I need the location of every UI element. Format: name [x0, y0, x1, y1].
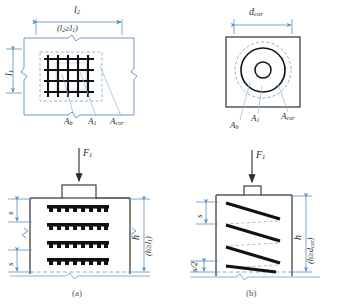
dim-label-l2: l2 — [74, 5, 80, 16]
spiral-front-b — [226, 203, 280, 272]
mesh-layer — [47, 223, 109, 230]
mesh-layer — [47, 205, 109, 212]
dim-label-s-top-b: s — [195, 214, 204, 218]
panel-b-plan — [226, 19, 300, 120]
area-label-ab-a: Ab — [64, 117, 73, 126]
mesh-layers-a — [47, 205, 109, 265]
panel-b-elevation — [190, 150, 320, 280]
dim-label-dcor: dcor — [249, 7, 263, 18]
dim-s-bottom-a — [8, 250, 32, 272]
core-circle-dashed-b — [235, 42, 291, 98]
dim-label-l1: l1 — [4, 70, 15, 76]
area-label-a1-a: A1 — [88, 117, 97, 126]
dim-label-s-bottom-a: s — [6, 262, 15, 266]
caption-b: (b) — [246, 288, 257, 298]
mesh-layer — [47, 241, 109, 248]
dim-label-h-a: h — [131, 235, 141, 240]
dim-note-h-ge-dcor: (h≥dcor) — [306, 237, 316, 264]
panel-a-elevation — [8, 148, 150, 279]
dim-l2 — [36, 19, 122, 35]
dim-label-h-b: h — [293, 235, 303, 240]
block-bottom-b — [190, 272, 320, 280]
area-label-acor-a: Acor — [110, 117, 124, 126]
side-breaks-a — [22, 228, 136, 238]
figure-canvas: l2 (l2≥l1) l1 Ab A1 Acor F1 s s h (h≥l1)… — [0, 0, 341, 305]
mesh-layer — [47, 258, 109, 265]
load-label-f1-a: F1 — [83, 148, 93, 159]
block-outline-a — [30, 198, 130, 274]
area-label-ab-b: Ab — [230, 121, 239, 130]
load-label-f1-b: F1 — [256, 150, 266, 161]
loaded-area-circle-b — [255, 62, 271, 78]
figure-geometry — [0, 0, 341, 305]
dim-dcor — [234, 19, 292, 34]
caption-a: (a) — [72, 288, 82, 298]
dim-s-top-b — [196, 202, 218, 224]
block-bottom-a — [10, 272, 150, 279]
dim-label-s-half-b: s/2 — [190, 261, 199, 272]
dim-label-s-top-a: s — [6, 211, 15, 215]
bearing-plate-b — [244, 186, 261, 195]
dim-note-l2-ge-l1: (l2≥l1) — [57, 24, 78, 34]
area-label-a1-b: A1 — [251, 114, 260, 123]
area-label-acor-b: Acor — [281, 112, 295, 121]
bearing-plate-a — [62, 185, 96, 198]
block-outline-b — [216, 195, 292, 276]
dim-note-h-ge-l1: (h≥l1) — [144, 236, 154, 256]
